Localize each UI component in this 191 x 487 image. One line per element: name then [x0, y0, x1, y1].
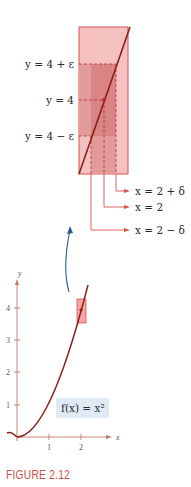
y-tick-1: 1	[6, 401, 10, 410]
x-axis-label: x	[115, 433, 120, 442]
y-tick-2: 2	[6, 368, 10, 377]
point-2-4	[102, 98, 106, 102]
point-2-4-small	[79, 308, 82, 311]
label-y-upper: y = 4 + ε	[24, 58, 74, 70]
y-tick-3: 3	[6, 336, 10, 345]
limit-diagram: y = 4 + ε y = 4 y = 4 − ε x = 2 + δ x = …	[0, 0, 191, 487]
function-label: f(x) = x²	[61, 402, 105, 414]
label-y-mid: y = 4	[45, 94, 74, 106]
delta-band	[91, 136, 116, 174]
label-x-lower: x = 2 − δ	[135, 224, 185, 236]
zoom-rectangle	[79, 27, 130, 174]
arrow-head-icon	[67, 226, 73, 234]
label-x-upper: x = 2 + δ	[135, 185, 185, 197]
y-tick-4: 4	[6, 304, 10, 313]
y-axis-label: y	[17, 269, 22, 278]
x-label-arrows	[91, 174, 126, 230]
zoom-arrow	[66, 230, 70, 292]
x-tick-1: 1	[47, 443, 51, 452]
x-tick-2: 2	[79, 443, 83, 452]
label-x-mid: x = 2	[135, 201, 163, 213]
figure-caption: FIGURE 2.12	[6, 468, 70, 482]
label-y-lower: y = 4 − ε	[24, 130, 74, 142]
